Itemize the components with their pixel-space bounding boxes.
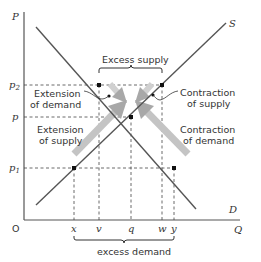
y-axis-label: P	[11, 11, 19, 22]
x-tick-x: x	[71, 223, 77, 234]
demand-label: D	[228, 204, 237, 215]
x-tick-w: w	[158, 223, 167, 234]
contraction-of-supply-line2: of supply	[187, 98, 231, 109]
contraction-supply-leader	[153, 91, 178, 100]
origin-label: O	[12, 223, 19, 234]
point-demand-p1	[172, 166, 176, 170]
x-tick-v: v	[96, 223, 102, 234]
excess-supply-brace	[99, 65, 162, 73]
excess-demand-label: excess demand	[97, 246, 171, 257]
p2-label: p2	[9, 79, 20, 92]
point-supply-p2	[160, 83, 164, 87]
p-label: p	[12, 111, 19, 122]
x-tick-q: q	[128, 223, 134, 234]
x-tick-y: y	[170, 223, 177, 234]
point-equilibrium	[129, 115, 133, 119]
contraction-of-supply-arrow	[135, 84, 152, 103]
supply-demand-diagram: P Q O p2 p p1 x v q w y S D Excess suppl…	[0, 0, 261, 262]
point-demand-p2	[97, 83, 101, 87]
p1-label: p1	[9, 162, 20, 175]
excess-demand-brace	[74, 236, 174, 243]
excess-supply-label: Excess supply	[102, 54, 169, 65]
contraction-of-demand-line1: Contraction	[180, 124, 235, 135]
supply-label: S	[229, 18, 236, 29]
extension-of-supply-line2: of supply	[39, 135, 83, 146]
x-axis-label: Q	[234, 224, 242, 235]
contraction-of-supply-line1: Contraction	[180, 87, 235, 98]
point-supply-p1	[72, 166, 76, 170]
extension-of-demand-line2: of demand	[30, 99, 81, 110]
extension-of-supply-line1: Extension	[37, 124, 84, 135]
contraction-of-demand-line2: of demand	[183, 135, 234, 146]
extension-of-demand-line1: Extension	[34, 88, 81, 99]
extension-of-demand-arrow	[110, 84, 127, 103]
